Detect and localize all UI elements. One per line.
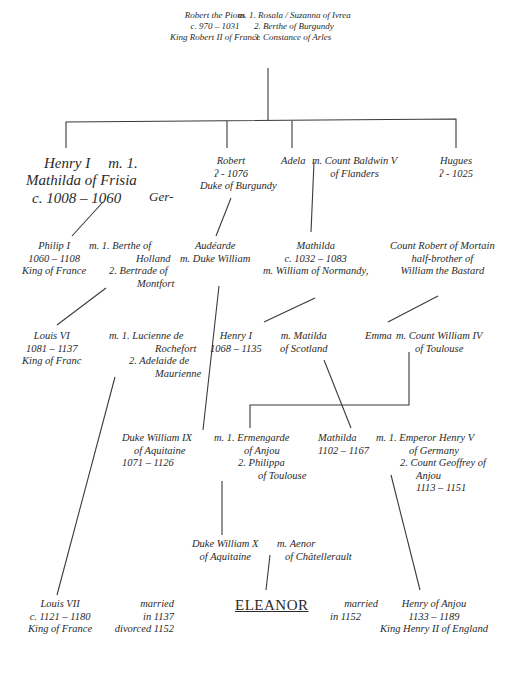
person-henry-i-of-england: Henry I 1068 – 1135: [210, 330, 262, 355]
spouse-line: of Toulouse: [396, 343, 482, 356]
marriage-duke-william-ix: m. 1. Ermengarde of Anjou 2. Philippa of…: [214, 432, 306, 482]
spouse-line: 3. Constance of Arles: [238, 32, 351, 43]
name: Henry I: [210, 330, 262, 343]
person-louis-vi: Louis VI 1081 – 1137 King of Franc: [22, 330, 82, 368]
person-mathilda-empress: Mathilda 1102 – 1167: [318, 432, 369, 457]
marriage-mathilda-empress: m. 1. Emperor Henry V of Germany 2. Coun…: [376, 432, 486, 495]
lifespan: 1068 – 1135: [210, 343, 262, 356]
note-line: married: [112, 598, 174, 611]
person-eleanor: ELEANOR: [235, 596, 309, 614]
spouse-line: of Scotland: [280, 343, 328, 356]
spouse-line: 2. Philippa: [214, 457, 306, 470]
marriage-louis-vi: m. 1. Lucienne de Rochefort 2. Adelaide …: [109, 330, 201, 380]
spouse-line: 2. Adelaide de: [109, 355, 201, 368]
note-line: divorced 1152: [112, 623, 174, 636]
spouse: Mathilda of Frisia: [26, 172, 138, 189]
spouse: m. Duke William: [180, 253, 250, 266]
spouse-line: 2. Count Geoffrey of: [376, 457, 486, 470]
spouse-line: Montfort: [89, 278, 174, 291]
marriage-adela: m. Count Baldwin V of Flanders: [312, 155, 397, 180]
person-henry-of-anjou: Henry of Anjou 1133 – 1189 King Henry II…: [380, 598, 488, 636]
person-count-robert-of-mortain: Count Robert of Mortain half-brother of …: [390, 240, 495, 278]
spouse-line: of Toulouse: [214, 470, 306, 483]
person-emma: Emma: [365, 330, 392, 343]
name: Henry I: [44, 155, 90, 171]
title: King of France: [28, 623, 92, 636]
spouse-line: of Anjou: [214, 445, 306, 458]
title: King Henry II of England: [380, 623, 488, 636]
text-ger: Ger-: [149, 190, 173, 205]
spouse-line: 2. Berthe of Burgundy: [238, 21, 351, 32]
person-audearde: Audéarde m. Duke William: [180, 240, 250, 265]
person-duke-william-ix: Duke William IX of Aquitaine 1071 – 1126: [122, 432, 192, 470]
marriage-note-henry: married in 1152: [330, 598, 378, 623]
relation: half-brother of: [390, 253, 495, 266]
spouse-line: m. 1. Berthe of: [89, 240, 174, 253]
note-line: in 1152: [330, 611, 378, 624]
person-robert-duke-of-burgundy: Robert ʔ - 1076 Duke of Burgundy: [200, 155, 262, 193]
lifespan: 1113 – 1151: [376, 482, 486, 495]
note-line: married: [330, 598, 378, 611]
spouse-line: m. Matilda: [280, 330, 328, 343]
person-adela: Adela: [281, 155, 306, 168]
note-line: in 1137: [112, 611, 174, 624]
lifespan: c. 1008 – 1060: [26, 190, 138, 207]
spouse-line: 2. Bertrade of: [89, 265, 174, 278]
spouse-line: m. Aenor: [277, 538, 352, 551]
name: Henry of Anjou: [380, 598, 488, 611]
spouse-line: m. 1. Emperor Henry V: [376, 432, 486, 445]
name: Emma: [365, 330, 392, 341]
name: Mathilda: [318, 432, 369, 445]
spouse-line: Rochefort: [109, 343, 201, 356]
name: Louis VII: [28, 598, 92, 611]
lifespan: 1081 – 1137: [22, 343, 82, 356]
marriage-label: m. 1.: [90, 155, 138, 171]
title: of Aquitaine: [122, 445, 192, 458]
person-duke-william-x: Duke William X of Aquitaine: [192, 538, 259, 563]
title: King of Franc: [22, 355, 82, 368]
spouse-line: m. Count Baldwin V: [312, 155, 397, 168]
lifespan: 1060 – 1108: [22, 253, 86, 266]
lifespan: 1071 – 1126: [122, 457, 192, 470]
name: Duke William IX: [122, 432, 192, 445]
spouse-line: m. 1. Ermengarde: [214, 432, 306, 445]
spouse-line: m. 1. Rosala / Suzanna of Ivrea: [238, 10, 351, 21]
person-mathilda-of-flanders: Mathilda c. 1032 – 1083 m. William of No…: [263, 240, 368, 278]
person-henry-i-of-france: Henry Im. 1. Mathilda of Frisia c. 1008 …: [26, 155, 138, 207]
spouse-line: Holland: [89, 253, 174, 266]
lifespan: 1133 – 1189: [380, 611, 488, 624]
name: Mathilda: [263, 240, 368, 253]
lifespan: 1102 – 1167: [318, 445, 369, 458]
spouse-line: m. Count William IV: [396, 330, 482, 343]
marriage-henry-i-of-england: m. Matilda of Scotland: [280, 330, 328, 355]
name: Adela: [281, 155, 306, 166]
title: of Aquitaine: [192, 551, 259, 564]
person-philip-i: Philip I 1060 – 1108 King of France: [22, 240, 86, 278]
title: Duke of Burgundy: [200, 180, 262, 193]
person-hugues: Hugues ʔ - 1025: [430, 155, 482, 180]
spouse-line: of Germany: [376, 445, 486, 458]
lifespan: c. 1121 – 1180: [28, 611, 92, 624]
name: Hugues: [430, 155, 482, 168]
name: Louis VI: [22, 330, 82, 343]
marriage-robert-the-pious: m. 1. Rosala / Suzanna of Ivrea 2. Berth…: [238, 10, 351, 42]
spouse-line: of Flanders: [312, 168, 397, 181]
name: Audéarde: [180, 240, 250, 253]
name: Duke William X: [192, 538, 259, 551]
spouse-line: of Châtellerault: [277, 551, 352, 564]
title: King of France: [22, 265, 86, 278]
spouse-line: m. 1. Lucienne de: [109, 330, 201, 343]
marriage-duke-william-x: m. Aenor of Châtellerault: [277, 538, 352, 563]
name: Robert: [200, 155, 262, 168]
marriage-note-louis-vii: married in 1137 divorced 1152: [112, 598, 174, 636]
lifespan: ʔ - 1076: [200, 168, 262, 181]
relation: William the Bastard: [390, 265, 495, 278]
person-louis-vii: Louis VII c. 1121 – 1180 King of France: [28, 598, 92, 636]
marriage-emma: m. Count William IV of Toulouse: [396, 330, 482, 355]
name: Philip I: [22, 240, 86, 253]
lifespan: c. 1032 – 1083: [263, 253, 368, 266]
marriage-philip-i: m. 1. Berthe of Holland 2. Bertrade of M…: [89, 240, 174, 290]
spouse: m. William of Normandy,: [263, 265, 368, 278]
lifespan: ʔ - 1025: [430, 168, 482, 181]
spouse-line: Anjou: [376, 470, 486, 483]
